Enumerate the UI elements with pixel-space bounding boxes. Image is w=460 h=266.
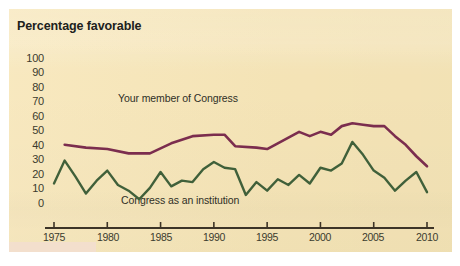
chart-figure: Percentage favorable 100 90 80 70 60 50 … bbox=[0, 0, 460, 266]
chart-plot-area bbox=[0, 0, 460, 266]
line-your-member-of-congress bbox=[65, 123, 427, 166]
